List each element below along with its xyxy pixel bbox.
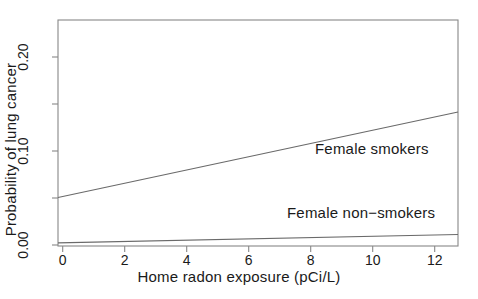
- data-series: [58, 112, 458, 243]
- y-tick-label-2: 0.20: [14, 27, 32, 87]
- y-axis-ticks: [52, 57, 58, 245]
- series-label-female-non-smokers: Female non−smokers: [287, 204, 435, 221]
- x-tick-label-0: 0: [43, 252, 83, 268]
- x-tick-label-10: 10: [353, 252, 393, 268]
- x-tick-label-12: 12: [415, 252, 455, 268]
- series-line-female-non-smokers: [58, 235, 458, 243]
- y-tick-label-1: 0.10: [14, 121, 32, 181]
- series-label-female-smokers: Female smokers: [315, 140, 429, 157]
- x-tick-label-6: 6: [229, 252, 269, 268]
- x-tick-label-4: 4: [167, 252, 207, 268]
- x-tick-label-8: 8: [291, 252, 331, 268]
- lung-cancer-radon-chart: Probability of lung cancer 0.00 0.10 0.2…: [0, 0, 478, 299]
- y-tick-label-0: 0.00: [14, 215, 32, 275]
- x-axis-title: Home radon exposure (pCi/L): [0, 268, 478, 285]
- x-tick-label-2: 2: [105, 252, 145, 268]
